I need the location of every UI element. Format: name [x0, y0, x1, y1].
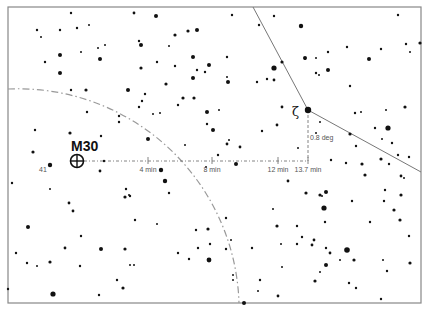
star: [133, 12, 136, 15]
star: [191, 76, 195, 80]
star: [329, 252, 332, 255]
star: [168, 192, 170, 194]
star: [225, 248, 227, 250]
star: [188, 258, 190, 260]
star: [138, 40, 140, 42]
star: [232, 274, 234, 276]
star: [304, 191, 307, 194]
star: [100, 135, 102, 137]
star: [276, 124, 279, 127]
star: [134, 219, 136, 221]
star: [321, 205, 326, 210]
star: [313, 279, 316, 282]
star: [156, 223, 158, 225]
star: [181, 96, 184, 99]
star: [275, 224, 278, 227]
star: [36, 29, 38, 31]
star: [154, 14, 158, 18]
star: [192, 96, 195, 99]
star: [11, 182, 13, 184]
star: [177, 252, 179, 254]
star: [326, 68, 330, 72]
star: [280, 60, 283, 63]
star: [346, 46, 348, 48]
star: [296, 243, 298, 245]
star: [174, 65, 176, 67]
star: [168, 45, 170, 47]
star-label-41: 41: [39, 166, 47, 173]
star: [239, 146, 242, 149]
star: [225, 217, 227, 219]
star: [318, 74, 320, 76]
star: [273, 79, 276, 82]
star: [234, 162, 238, 166]
star: [403, 105, 406, 108]
star: [70, 12, 72, 14]
star: [146, 137, 150, 141]
star: [324, 263, 328, 267]
star: [324, 221, 326, 223]
star: [68, 131, 71, 134]
star: [99, 247, 103, 251]
star: [133, 264, 135, 266]
star: [72, 210, 75, 213]
star: [273, 15, 275, 17]
star: [159, 112, 161, 114]
star: [360, 111, 362, 113]
star: [197, 247, 199, 249]
star: [195, 229, 197, 231]
tick-label: 8 min: [203, 166, 220, 173]
star: [206, 227, 209, 230]
star: [354, 112, 356, 114]
star: [230, 239, 232, 241]
star: [355, 287, 357, 289]
star: [116, 279, 118, 281]
star: [226, 143, 229, 146]
star: [281, 266, 283, 268]
star: [218, 109, 220, 111]
star: [184, 144, 186, 146]
star: [126, 88, 130, 92]
guide-star-zeta[interactable]: [305, 107, 311, 113]
star: [26, 225, 30, 229]
star: [380, 298, 382, 300]
star: [348, 282, 350, 284]
star: [385, 125, 390, 130]
star: [196, 69, 198, 71]
star: [26, 262, 28, 264]
star: [49, 188, 51, 190]
m30-globular-cluster-icon[interactable]: [71, 155, 84, 168]
star: [408, 235, 410, 237]
star: [315, 72, 317, 74]
star: [397, 14, 399, 16]
star: [103, 160, 105, 162]
star: [242, 301, 246, 305]
star: [398, 218, 401, 221]
star: [301, 236, 303, 238]
star: [141, 100, 143, 102]
star: [7, 288, 9, 290]
guide-star-greek-label: ζ: [292, 104, 299, 119]
star: [97, 47, 99, 49]
star: [156, 61, 158, 63]
star: [403, 177, 405, 179]
star: [272, 208, 274, 210]
star: [88, 24, 90, 26]
star: [360, 162, 363, 165]
star: [58, 53, 62, 57]
star: [313, 239, 316, 242]
star: [382, 259, 384, 261]
star: [384, 189, 386, 191]
star: [70, 89, 72, 91]
star: [129, 264, 131, 266]
star: [118, 115, 120, 117]
star: [386, 270, 388, 272]
star: [400, 175, 403, 178]
star: [36, 265, 38, 267]
star: [393, 209, 395, 211]
star: [380, 48, 382, 50]
star: [76, 27, 78, 29]
star: [345, 162, 347, 164]
star: [319, 121, 321, 123]
star: [164, 82, 167, 85]
